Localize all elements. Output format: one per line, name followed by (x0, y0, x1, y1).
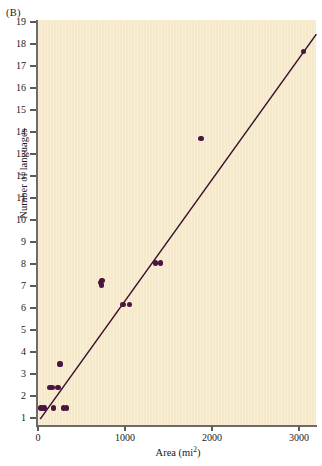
y-tick-label-6: 6 (4, 303, 26, 313)
y-tick-label-14: 14 (4, 127, 26, 137)
data-point (42, 405, 47, 410)
data-point (58, 361, 63, 366)
y-tick-label-13: 13 (4, 149, 26, 159)
y-tick-17 (30, 65, 36, 66)
y-tick-6 (30, 307, 36, 308)
y-tick-label-1: 1 (4, 413, 26, 423)
x-tick-0 (37, 426, 38, 431)
y-tick-label-3: 3 (4, 369, 26, 379)
x-tick-2000 (211, 426, 212, 431)
y-tick-1 (30, 417, 36, 418)
x-tick-label-3000: 3000 (279, 433, 319, 443)
y-tick-14 (30, 131, 36, 132)
x-tick-label-0: 0 (18, 433, 58, 443)
y-tick-label-10: 10 (4, 215, 26, 225)
plot-area (38, 20, 316, 426)
x-axis-spine (36, 425, 317, 427)
y-axis-spine (36, 20, 38, 426)
y-tick-label-5: 5 (4, 325, 26, 335)
x-axis-title-text: Area (mi (156, 447, 194, 458)
y-tick-2 (30, 395, 36, 396)
y-tick-11 (30, 197, 36, 198)
y-tick-label-17: 17 (4, 61, 26, 71)
regression-line-stroke (40, 34, 316, 419)
y-tick-10 (30, 219, 36, 220)
y-tick-4 (30, 351, 36, 352)
y-tick-15 (30, 109, 36, 110)
regression-line (38, 20, 316, 426)
data-point (99, 278, 104, 283)
y-tick-16 (30, 87, 36, 88)
y-tick-5 (30, 329, 36, 330)
y-tick-9 (30, 241, 36, 242)
data-point (198, 136, 203, 141)
y-tick-label-11: 11 (4, 193, 26, 203)
x-tick-label-1000: 1000 (105, 433, 145, 443)
x-tick-3000 (298, 426, 299, 431)
data-point (55, 385, 60, 390)
y-tick-label-9: 9 (4, 237, 26, 247)
x-tick-1000 (124, 426, 125, 431)
y-tick-label-2: 2 (4, 391, 26, 401)
y-tick-label-8: 8 (4, 259, 26, 269)
y-tick-12 (30, 175, 36, 176)
y-tick-7 (30, 285, 36, 286)
y-tick-3 (30, 373, 36, 374)
y-tick-18 (30, 43, 36, 44)
data-point (50, 385, 55, 390)
y-tick-label-4: 4 (4, 347, 26, 357)
y-tick-13 (30, 153, 36, 154)
y-tick-label-19: 19 (4, 17, 26, 27)
data-point (120, 302, 125, 307)
y-tick-label-12: 12 (4, 171, 26, 181)
x-axis-title: Area (mi2) (38, 447, 318, 458)
x-tick-label-2000: 2000 (192, 433, 232, 443)
x-axis-title-close: ) (197, 447, 201, 458)
y-tick-19 (30, 21, 36, 22)
y-tick-label-15: 15 (4, 105, 26, 115)
y-tick-label-7: 7 (4, 281, 26, 291)
y-tick-8 (30, 263, 36, 264)
figure-panel-b: (B) Number of languages Area (mi2) 12345… (0, 0, 322, 466)
data-point (158, 260, 163, 265)
y-tick-label-16: 16 (4, 83, 26, 93)
y-tick-label-18: 18 (4, 39, 26, 49)
